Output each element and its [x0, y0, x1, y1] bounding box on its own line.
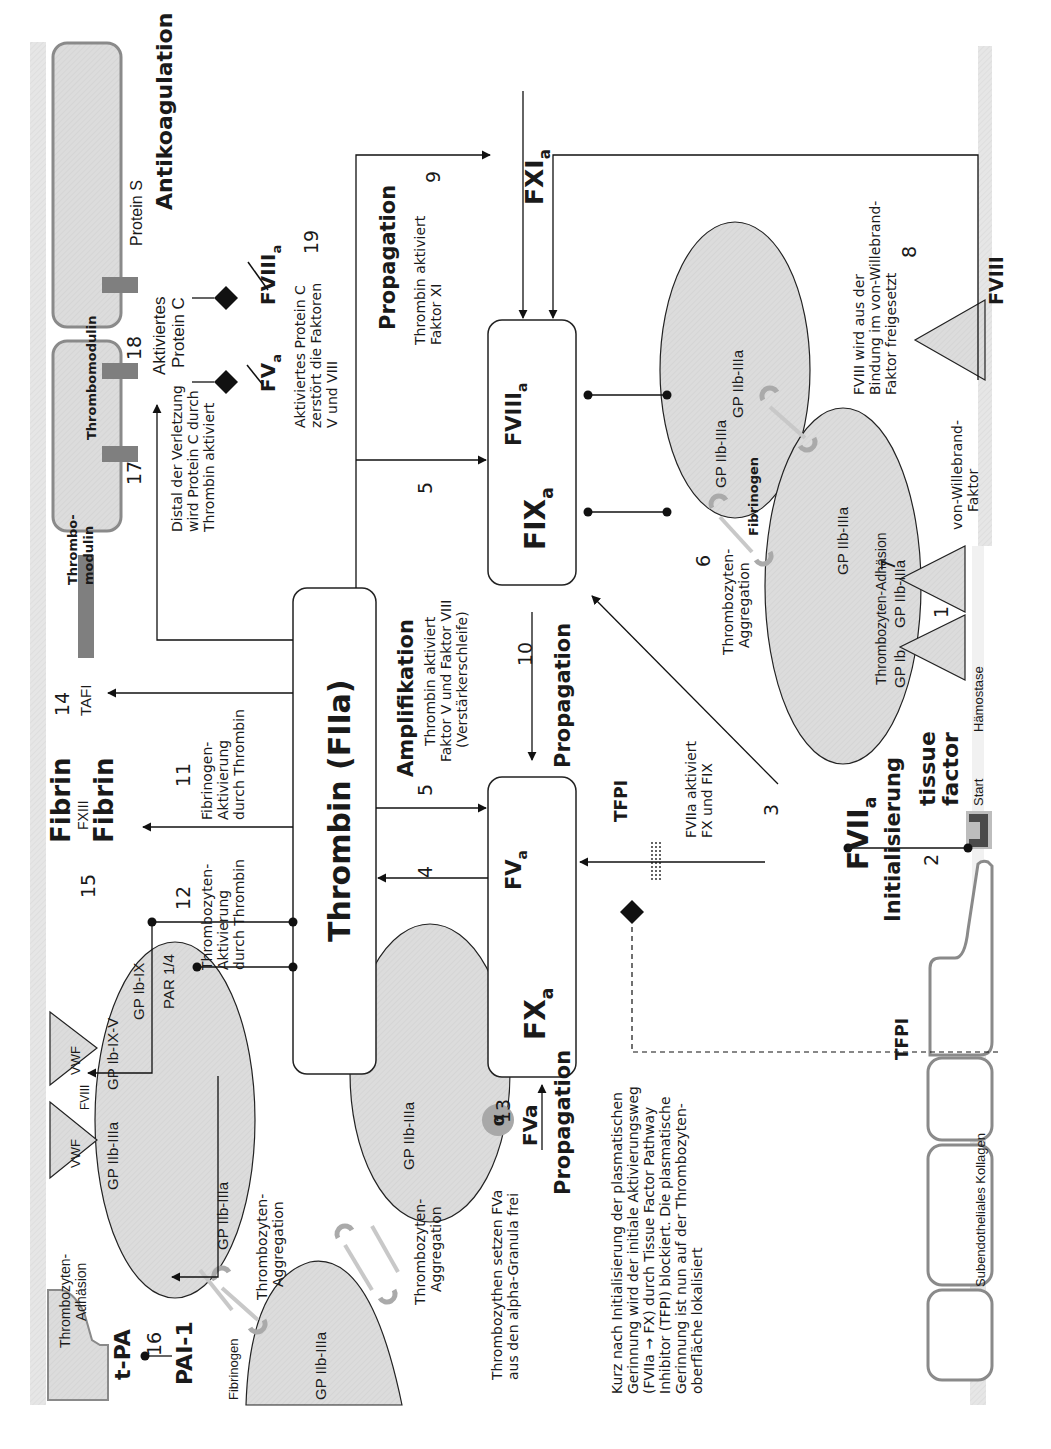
- svg-text:Bindung im von-Willebrand-: Bindung im von-Willebrand-: [867, 201, 883, 395]
- svg-text:Aktivierung: Aktivierung: [215, 740, 231, 820]
- label-gp2b3a-left-bottom: GP IIb-IIIa: [312, 1331, 329, 1400]
- vessel-wall-band-left: [30, 42, 46, 1405]
- label-fxia: FXIa: [520, 149, 554, 205]
- label-gp2b3a-left-adh: GP IIb-IIIa: [104, 1121, 121, 1190]
- svg-text:Aggregation: Aggregation: [736, 562, 752, 648]
- label-gp2b3a-right-adh: GP IIb-IIIa: [891, 559, 908, 628]
- label-vwf-1: VWF: [68, 1139, 83, 1168]
- label-vwf-2: VWF: [68, 1046, 83, 1075]
- thrombomodulin-bar: [102, 277, 138, 293]
- heading-antikoagulation: Antikoagulation: [152, 13, 177, 210]
- label-fviii-small: FVIII: [78, 1085, 92, 1110]
- subendothelial-cell: [928, 1290, 992, 1380]
- annotation-fviia-activates: FVIIa aktiviert FX und FIX: [683, 740, 715, 838]
- step-13: 13: [492, 1099, 514, 1123]
- label-fva-inactivated: FVa: [247, 354, 284, 392]
- svg-text:Aktivierung: Aktivierung: [215, 890, 231, 970]
- label-subendothelial: Subendotheliales Kollagen: [973, 1133, 988, 1287]
- svg-text:Faktor: Faktor: [965, 468, 981, 512]
- label-tissue: tissue: [915, 731, 940, 806]
- step-5b: 5: [414, 482, 436, 494]
- svg-text:FXIa: FXIa: [520, 149, 554, 205]
- svg-text:wird Protein C durch: wird Protein C durch: [185, 390, 201, 532]
- label-fviiia-inactivated: FVIIIa: [248, 245, 284, 305]
- annotation-apc-destroys: Aktiviertes Protein C zerstört die Fakto…: [292, 283, 340, 428]
- label-gp1b9: GP Ib-IX: [130, 963, 147, 1020]
- label-fviia: FVIIa: [842, 797, 880, 870]
- svg-text:FX und FIX: FX und FIX: [699, 763, 715, 838]
- svg-text:Aktiviertes Protein C: Aktiviertes Protein C: [292, 285, 308, 428]
- annotation-fibrinogen-activation: Fibrinogen- Aktivierung durch Thrombin: [199, 709, 247, 820]
- svg-text:(FVIIa → FX) durch Tissue Fact: (FVIIa → FX) durch Tissue Factor Pathway: [641, 1107, 657, 1394]
- label-tfpi-top: TFPI: [611, 780, 631, 822]
- svg-text:(Verstärkerschleife): (Verstärkerschleife): [454, 611, 470, 748]
- label-fviii-right: FVIII: [985, 256, 1007, 305]
- label-fibrinogen-right: Fibrinogen: [746, 457, 761, 536]
- svg-text:Thrombozyten-: Thrombozyten-: [412, 1199, 428, 1306]
- svg-text:Faktor V und Faktor VIII: Faktor V und Faktor VIII: [438, 599, 454, 762]
- label-adhesion-right: Thrombozyten-Adhäsion: [873, 532, 889, 685]
- svg-text:Thrombin aktiviert: Thrombin aktiviert: [412, 215, 428, 346]
- annotation-tfpi-note: Kurz nach Initialisierung der plasmatisc…: [609, 1086, 705, 1394]
- label-gp2b3a-platelet-tr-1: GP IIb-IIIa: [712, 419, 729, 488]
- annotation-fviii-release: FVIII wird aus der Bindung im von-Willeb…: [851, 201, 899, 395]
- svg-text:FVIIIa: FVIIIa: [502, 383, 530, 447]
- annotation-platelets-release: Thrombozythen setzen FVa aus den alpha-G…: [489, 1190, 521, 1381]
- svg-text:Thrombin aktiviert: Thrombin aktiviert: [201, 402, 217, 533]
- step-19: 19: [300, 230, 322, 254]
- label-adhesion-left-2: Adhäsion: [73, 1263, 89, 1321]
- svg-text:FVIII wird aus der: FVIII wird aus der: [851, 274, 867, 395]
- label-thrombomodulin-2b: modulin: [81, 526, 96, 585]
- label-gp2b3a-left-middle: GP IIb-IIIa: [400, 1101, 417, 1170]
- subendothelial-cell-injured: [930, 861, 992, 1055]
- svg-text:Inhibitor (TFPI) blockiert. Di: Inhibitor (TFPI) blockiert. Die plasmati…: [657, 1096, 673, 1394]
- step-16: 16: [143, 1332, 165, 1356]
- annotation-amplifikation: Thrombin aktiviert Faktor V und Faktor V…: [422, 599, 470, 762]
- thrombomodulin-bar: [102, 363, 138, 379]
- label-fva-released: FVa: [518, 1104, 542, 1146]
- svg-text:von-Willebrand-: von-Willebrand-: [949, 420, 965, 530]
- label-gp2b3a-platelet-br: GP IIb-IIIa: [834, 506, 851, 575]
- step-4: 4: [414, 866, 436, 878]
- subendothelial-cell: [928, 1058, 992, 1140]
- label-gp2b3a-platelet-tr-2: GP IIb-IIIa: [729, 349, 746, 418]
- step-12: 12: [172, 886, 194, 910]
- label-protein-s: Protein S: [128, 180, 145, 246]
- step-3: 3: [760, 804, 782, 816]
- label-start: Start: [971, 778, 986, 806]
- label-fibrin-2: Fibrin: [89, 757, 119, 843]
- label-tpa: t-PA: [110, 1329, 135, 1380]
- svg-text:FVIIIa: FVIIIa: [256, 245, 284, 305]
- label-fviiia: FVIIIa: [502, 383, 530, 447]
- thrombomodulin-bar: [102, 446, 138, 462]
- label-par: PAR 1/4: [160, 954, 177, 1009]
- svg-text:Gerinnung wird der initiale Ak: Gerinnung wird der initiale Aktivierungs…: [625, 1086, 641, 1394]
- label-thrombomodulin-2a: Thrombo-: [65, 514, 80, 585]
- step-6: 6: [692, 555, 714, 567]
- step-15: 15: [77, 874, 99, 898]
- label-thrombomodulin: Thrombomodulin: [84, 316, 99, 440]
- svg-text:Faktor XI: Faktor XI: [428, 284, 444, 345]
- label-apc-2: Protein C: [169, 297, 188, 368]
- svg-text:Thrombin aktiviert: Thrombin aktiviert: [422, 616, 438, 747]
- step-11: 11: [172, 763, 194, 787]
- step-10: 10: [514, 642, 536, 666]
- svg-text:Thrombozyten-: Thrombozyten-: [199, 864, 215, 971]
- label-adhesion-left-1: Thrombozyten-: [57, 1254, 73, 1348]
- svg-text:Kurz nach Initialisierung der: Kurz nach Initialisierung der plasmatisc…: [609, 1092, 625, 1394]
- step-5a: 5: [414, 784, 436, 796]
- svg-text:FVa: FVa: [256, 354, 284, 392]
- svg-text:FVIIa aktiviert: FVIIa aktiviert: [683, 740, 699, 838]
- svg-text:aus den alpha-Granula frei: aus den alpha-Granula frei: [505, 1193, 521, 1380]
- vwf-triangle-fviii: [915, 300, 985, 380]
- step-9: 9: [422, 171, 444, 183]
- annotation-distal: Distal der Verletzung wird Protein C dur…: [169, 385, 217, 533]
- svg-text:FVIIa: FVIIa: [842, 797, 880, 870]
- step-14: 14: [51, 692, 73, 716]
- svg-text:V und VIII: V und VIII: [324, 361, 340, 428]
- label-gp1b9v: GP Ib-IX-V: [104, 1018, 121, 1090]
- svg-text:Thrombozyten-: Thrombozyten-: [254, 1194, 270, 1301]
- label-gp1b-right: GP Ib: [891, 650, 908, 688]
- label-thrombin: Thrombin (FIIa): [322, 679, 357, 942]
- heading-propagation-mid: Propagation: [551, 623, 575, 768]
